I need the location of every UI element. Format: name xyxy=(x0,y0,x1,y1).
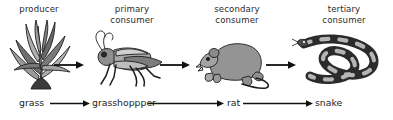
arrow-grasshopper-to-rat xyxy=(160,60,190,70)
chain-name-snake: snake xyxy=(315,96,342,110)
trophic-label-primary-line1: primary xyxy=(92,4,172,15)
trophic-label-producer: producer xyxy=(0,4,78,15)
arrow-rat-to-snake xyxy=(266,60,296,70)
trophic-label-primary-line2: consumer xyxy=(92,15,172,26)
chain-arrow-grasshopper-to-rat xyxy=(148,99,224,108)
rat-icon xyxy=(192,34,272,90)
food-chain-name-row: grass grasshoppper rat snake xyxy=(0,96,393,116)
trophic-label-tertiary-line2: consumer xyxy=(302,15,386,26)
trophic-label-secondary-line2: consumer xyxy=(196,15,278,26)
chain-name-rat: rat xyxy=(227,96,240,110)
trophic-label-secondary-line1: secondary xyxy=(196,4,278,15)
chain-arrow-grass-to-grasshopper xyxy=(50,99,90,108)
trophic-label-tertiary-consumer: tertiary consumer xyxy=(302,4,386,25)
snake-icon xyxy=(292,30,388,92)
food-chain-diagram: producer primary consumer secondary cons… xyxy=(0,0,393,120)
arrow-grass-to-grasshopper xyxy=(54,60,84,70)
chain-arrow-rat-to-snake xyxy=(243,99,313,108)
grass-plant-icon xyxy=(4,18,78,92)
trophic-label-primary-consumer: primary consumer xyxy=(92,4,172,25)
chain-name-grass: grass xyxy=(19,96,44,110)
grasshopper-icon xyxy=(80,28,172,90)
chain-name-grasshopper: grasshoppper xyxy=(92,96,156,110)
trophic-label-producer-line1: producer xyxy=(0,4,78,15)
trophic-label-tertiary-line1: tertiary xyxy=(302,4,386,15)
trophic-label-secondary-consumer: secondary consumer xyxy=(196,4,278,25)
